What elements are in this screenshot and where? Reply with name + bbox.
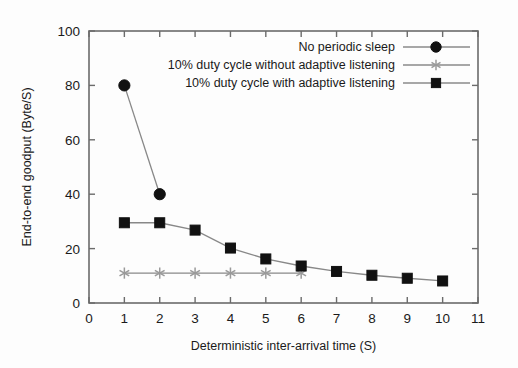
chart-legend: No periodic sleep10% duty cycle without … [168, 40, 470, 90]
x-tick-label: 6 [297, 311, 305, 326]
x-axis-tick-labels: 01234567891011 [85, 311, 485, 326]
y-tick-label: 80 [65, 78, 80, 93]
y-tick-label: 20 [65, 242, 80, 257]
legend-label-2: 10% duty cycle with adaptive listening [185, 76, 395, 90]
y-axis-tick-labels: 020406080100 [57, 24, 80, 311]
x-tick-label: 5 [262, 311, 270, 326]
series-2 [119, 218, 447, 286]
x-tick-label: 3 [191, 311, 199, 326]
chart-figure: 01234567891011 020406080100 No periodic … [0, 0, 518, 368]
x-tick-label: 11 [471, 311, 485, 326]
x-tick-label: 9 [404, 311, 412, 326]
x-tick-label: 8 [368, 311, 376, 326]
legend-label-1: 10% duty cycle without adaptive listenin… [168, 58, 395, 72]
x-tick-label: 1 [121, 311, 129, 326]
series-1 [120, 267, 307, 278]
x-axis-title: Deterministic inter-arrival time (S) [191, 339, 376, 353]
x-tick-label: 4 [227, 311, 235, 326]
series-0 [119, 80, 166, 200]
x-tick-label: 2 [156, 311, 164, 326]
x-tick-label: 10 [435, 311, 450, 326]
y-tick-label: 0 [72, 296, 80, 311]
chart-canvas: 01234567891011 020406080100 No periodic … [0, 0, 518, 368]
y-axis-title: End-to-end goodput (Byte/S) [20, 87, 34, 246]
x-tick-label: 0 [85, 311, 93, 326]
y-tick-label: 100 [57, 24, 80, 39]
y-tick-label: 60 [65, 133, 80, 148]
y-tick-label: 40 [65, 187, 80, 202]
x-tick-label: 7 [333, 311, 341, 326]
series-layer [119, 80, 448, 286]
legend-label-0: No periodic sleep [298, 40, 395, 54]
